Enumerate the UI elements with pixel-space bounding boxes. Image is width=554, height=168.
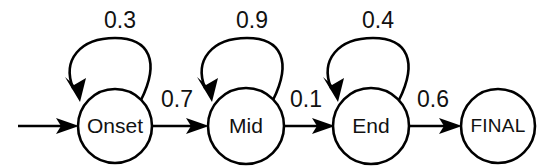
state-node-end[interactable]: End (333, 88, 409, 164)
state-node-mid-label: Mid (229, 114, 263, 137)
state-node-end-label: End (352, 114, 389, 137)
transition-mid-to-end (284, 118, 335, 134)
state-node-final-label: FINAL (471, 115, 526, 136)
self-loop-onset-weight: 0.3 (104, 7, 136, 33)
state-node-onset[interactable]: Onset (78, 89, 152, 163)
transition-end-to-final-weight: 0.6 (417, 86, 449, 112)
transition-end-to-final (409, 118, 462, 134)
state-node-final[interactable]: FINAL (461, 89, 535, 163)
self-loop-onset-arrowhead (65, 77, 86, 102)
self-loop-mid-weight: 0.9 (236, 7, 268, 33)
transition-onset-to-mid (152, 118, 209, 134)
self-loop-end-arrowhead (323, 77, 344, 102)
state-machine-diagram: Onset Mid End FINAL 0.3 0.9 0.4 0.7 0.1 … (0, 0, 554, 168)
state-node-mid[interactable]: Mid (208, 88, 284, 164)
self-loop-end-weight: 0.4 (362, 7, 394, 33)
state-node-onset-label: Onset (87, 114, 143, 137)
start-transition (18, 118, 79, 134)
state-diagram-canvas: Onset Mid End FINAL 0.3 0.9 0.4 0.7 0.1 … (0, 0, 554, 168)
transition-mid-to-end-weight: 0.1 (290, 86, 322, 112)
self-loop-mid-arrowhead (197, 77, 218, 102)
transition-onset-to-mid-weight: 0.7 (161, 86, 193, 112)
